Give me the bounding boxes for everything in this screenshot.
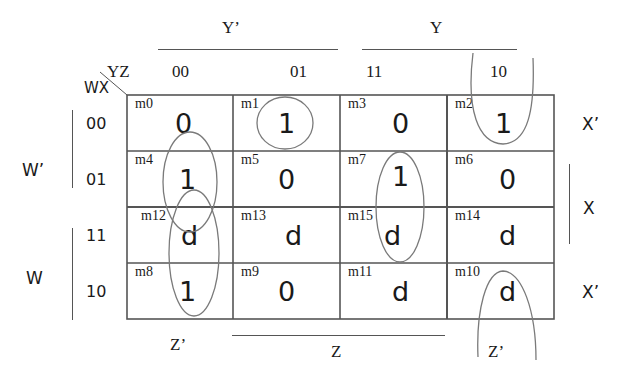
- oval-m10-wrap-bottom: [478, 271, 536, 360]
- oval-m12-m8: [169, 190, 219, 316]
- oval-m1: [257, 97, 313, 149]
- kmap-lines-overlay: [0, 0, 629, 380]
- grid-lines: [100, 72, 554, 319]
- oval-m4-m12: [163, 132, 217, 232]
- oval-m2-wrap-top: [471, 53, 533, 144]
